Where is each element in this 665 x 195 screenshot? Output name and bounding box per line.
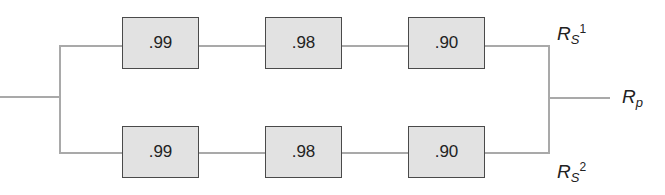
top-component-2: .98: [265, 17, 342, 69]
reliability-value: .98: [292, 33, 316, 53]
label-rs1: RS1: [557, 22, 586, 47]
label-base: R: [622, 86, 636, 107]
input-wire: [0, 96, 61, 98]
bottom-wire-2: [199, 152, 266, 154]
bottom-component-3: .90: [408, 126, 485, 178]
reliability-value: .99: [149, 142, 173, 162]
bottom-component-1: .99: [122, 126, 199, 178]
bottom-wire-3: [342, 152, 409, 154]
right-join-wire: [548, 45, 550, 154]
label-base: R: [557, 23, 571, 44]
output-wire: [548, 97, 610, 99]
label-rp: Rp: [622, 86, 643, 110]
left-split-wire: [59, 45, 61, 154]
label-rs2: RS2: [557, 160, 586, 185]
top-component-3: .90: [408, 17, 485, 69]
top-wire-4: [485, 45, 550, 47]
bottom-component-2: .98: [265, 126, 342, 178]
reliability-value: .99: [149, 33, 173, 53]
bottom-wire-4: [485, 152, 550, 154]
label-sup: 2: [579, 160, 586, 174]
label-sub: p: [636, 95, 643, 110]
top-wire-2: [199, 45, 266, 47]
label-sup: 1: [579, 22, 586, 36]
top-component-1: .99: [122, 17, 199, 69]
label-base: R: [557, 161, 571, 182]
top-wire-3: [342, 45, 409, 47]
reliability-value: .90: [435, 33, 459, 53]
top-wire-1: [59, 45, 123, 47]
reliability-value: .98: [292, 142, 316, 162]
bottom-wire-1: [59, 152, 123, 154]
reliability-value: .90: [435, 142, 459, 162]
